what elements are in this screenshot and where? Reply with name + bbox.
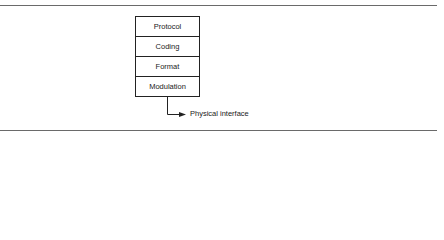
bottom-rule — [0, 130, 437, 131]
physical-interface-label: Physical interface — [190, 109, 249, 118]
